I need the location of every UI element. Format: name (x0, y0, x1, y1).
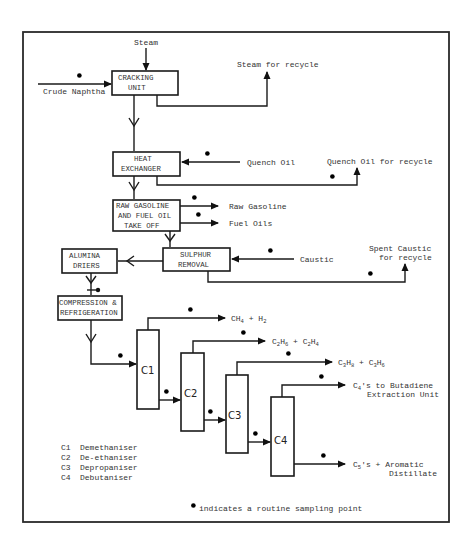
sampling-point-icon (286, 351, 291, 362)
sampling-point-icon (164, 389, 169, 400)
raw-gasoline-out-label: Raw Gasoline (229, 202, 287, 211)
sampling-point-icon (96, 288, 100, 292)
c1-overhead-line (148, 318, 225, 330)
sampling-point-icon (118, 353, 123, 364)
compression-label-2: REFRIGERATION (60, 309, 118, 317)
crude-naphtha-label: Crude Naphtha (43, 87, 106, 96)
c4-overhead-line (282, 385, 345, 397)
steam-recycle-label: Steam for recycle (237, 60, 319, 69)
quench-oil-label: Quench Oil (247, 158, 295, 167)
c2-overhead-line (193, 341, 265, 353)
legend-name: Depropaniser (80, 463, 138, 472)
raw-gasoline-label-1: RAW GASOLINE (116, 202, 170, 210)
caustic-in-label: Caustic (300, 255, 334, 264)
quench-recycle-label: Quench Oil for recycle (327, 157, 433, 166)
legend-code: C3 (61, 463, 71, 472)
legend-code: C4 (61, 473, 71, 482)
compression-to-c1-line (91, 320, 136, 364)
column-c3-label: C3 (228, 410, 241, 421)
raw-gasoline-label-2: AND FUEL OIL (118, 212, 171, 220)
legend-name: Demethaniser (80, 443, 138, 452)
process-flow-diagram: Steam Crude Naphtha CRACKING UNIT Steam … (0, 0, 472, 550)
sampling-point-icon (268, 248, 273, 259)
column-c4-label: C4 (274, 435, 287, 446)
sampling-point-icon (188, 307, 193, 318)
sampling-point-icon (253, 431, 258, 442)
steam-input-label: Steam (134, 38, 158, 47)
sulphur-removal-label-2: REMOVAL (178, 261, 209, 269)
legend-code: C1 (61, 443, 71, 452)
sampling-point-icon (208, 409, 213, 420)
spent-caustic-label-2: for recycle (379, 253, 432, 262)
column-c2-label: C2 (184, 388, 197, 399)
spent-caustic-label-1: Spent Caustic (369, 244, 432, 253)
raw-gasoline-label-3: TAKE OFF (124, 222, 159, 230)
sampling-point-icon (205, 151, 210, 162)
compression-label-1: COMPRESSION & (59, 299, 117, 307)
sampling-point-icon (330, 174, 335, 185)
heat-exchanger-label-2: EXCHANGER (121, 165, 161, 173)
c2-product-label: C2H6 + C2H4 (272, 337, 320, 348)
c4-bottom-product-label-2: Distillate (389, 469, 437, 478)
sampling-point-icon (191, 503, 196, 514)
sampling-point-icon (192, 195, 197, 206)
quench-recycle-line (157, 168, 357, 185)
spent-caustic-line (208, 264, 405, 282)
alumina-driers-label-2: DRIERS (73, 262, 100, 270)
sampling-point-icon (196, 212, 201, 223)
sampling-point-icon (321, 453, 326, 464)
legend-name: Debutaniser (80, 473, 133, 482)
column-c1-label: C1 (141, 365, 154, 376)
sampling-point-icon (77, 73, 82, 84)
legend-code: C2 (61, 453, 71, 462)
fuel-oils-out-label: Fuel Oils (229, 219, 272, 228)
sulphur-removal-label-1: SULPHUR (180, 251, 212, 259)
alumina-driers-label-1: ALUMINA (69, 252, 101, 260)
cracking-unit-label-2: UNIT (128, 84, 146, 92)
c3-product-label: C3H8 + C3H6 (338, 358, 385, 369)
legend-name: De-ethaniser (80, 453, 138, 462)
heat-exchanger-label-1: HEAT (134, 155, 152, 163)
c4-top-product-label-2: Extraction Unit (367, 390, 439, 399)
c3-overhead-line (237, 362, 332, 375)
column-legend: C1 Demethaniser C2 De-ethaniser C3 Depro… (61, 443, 138, 482)
footnote-label: indicates a routine sampling point (199, 504, 362, 513)
sampling-point-icon (368, 271, 373, 282)
sampling-point-icon (241, 330, 246, 341)
c1-product-label: CH4 + H2 (231, 314, 266, 325)
sampling-point-icon (319, 374, 324, 385)
cracking-unit-label-1: CRACKING (118, 74, 153, 82)
